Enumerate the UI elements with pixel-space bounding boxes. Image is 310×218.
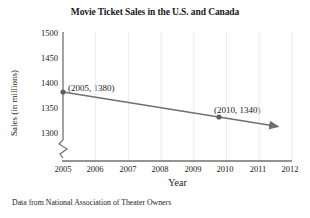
data-point-2010: [216, 114, 221, 119]
gridlines-vertical: [96, 32, 292, 161]
source-note: Data from National Association of Theate…: [12, 198, 171, 207]
data-point-2005: [60, 89, 65, 94]
axis-break-icon: [59, 140, 67, 158]
plot-canvas: [0, 0, 310, 218]
trend-line: [63, 92, 278, 127]
chart-figure: Movie Ticket Sales in the U.S. and Canad…: [0, 0, 310, 218]
